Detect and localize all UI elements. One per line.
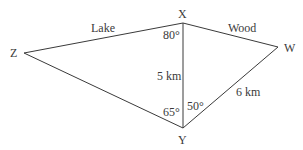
point-label-z: Z: [10, 46, 17, 60]
edge-zy: [24, 53, 183, 128]
angle-label-x: 80°: [163, 28, 180, 42]
angle-label-y-left: 65°: [163, 105, 180, 119]
point-label-y: Y: [178, 133, 187, 147]
edge-label-wood: Wood: [228, 21, 256, 35]
point-label-x: X: [178, 7, 187, 21]
edge-label-lake: Lake: [91, 21, 115, 35]
point-label-w: W: [284, 41, 296, 55]
triangle-diagram: X Z W Y Lake Wood 5 km 6 km 80° 65° 50°: [0, 0, 303, 150]
edge-label-6km: 6 km: [236, 85, 261, 99]
angle-label-y-right: 50°: [187, 99, 204, 113]
edge-yw: [183, 47, 278, 128]
edge-label-5km: 5 km: [157, 69, 182, 83]
